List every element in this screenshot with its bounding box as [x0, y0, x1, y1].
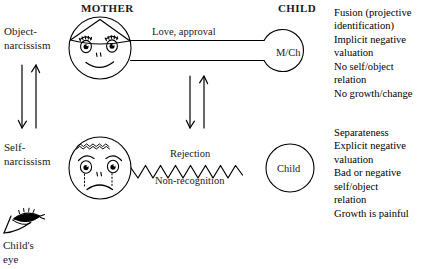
connector-double-line: [131, 41, 265, 61]
arrow-pair-middle: [186, 76, 207, 128]
childs-eye-icon: [4, 208, 45, 233]
row-label-object-narcissism: Object- narcissism: [4, 24, 50, 52]
narcissism-diagram: MOTHER CHILD Object- narcissism Self- na…: [0, 0, 423, 269]
outcomes-self-narcissism: Separateness Explicit negative valuation…: [334, 126, 409, 220]
node-label-m-ch: M/Ch: [276, 47, 301, 59]
edge-label-rejection: Rejection: [170, 148, 210, 160]
legend-caption-childs-eye: Child's eye: [3, 238, 34, 267]
column-header-mother: MOTHER: [81, 2, 134, 15]
sad-face-icon: [69, 137, 131, 199]
edge-label-non-recognition: Non-recognition: [155, 175, 224, 187]
row-label-self-narcissism: Self- narcissism: [4, 140, 50, 168]
edge-label-love-approval: Love, approval: [152, 26, 216, 38]
smiling-face-icon: [69, 17, 131, 79]
outcomes-object-narcissism: Fusion (projective identification) Impli…: [334, 6, 413, 100]
column-header-child: CHILD: [278, 2, 316, 15]
node-label-child: Child: [277, 163, 300, 175]
arrow-pair-left: [18, 65, 39, 128]
